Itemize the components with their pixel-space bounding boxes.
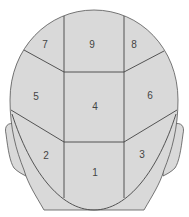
zone-2-label: 2 — [43, 150, 49, 161]
zone-9-label: 9 — [89, 39, 95, 50]
zone-8-label: 8 — [131, 39, 137, 50]
head-zone-diagram: 7 9 8 5 4 6 2 1 3 — [0, 0, 189, 217]
zone-3-label: 3 — [139, 149, 145, 160]
zone-4-label: 4 — [92, 101, 98, 112]
zone-5-label: 5 — [33, 91, 39, 102]
zone-6-label: 6 — [147, 90, 153, 101]
zone-1-label: 1 — [92, 167, 98, 178]
zone-7-label: 7 — [42, 39, 48, 50]
